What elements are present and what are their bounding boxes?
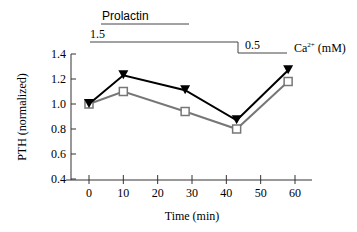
y-tick-label: 0.6 (51, 147, 66, 161)
calcium-low-label: 0.5 (245, 38, 260, 52)
data-point-square (119, 88, 127, 96)
data-point-square (181, 108, 189, 116)
prolactin-label: Prolactin (102, 9, 149, 23)
plot-area (84, 65, 293, 133)
calcium-high-label: 1.5 (90, 27, 105, 41)
x-tick-label: 50 (255, 186, 267, 200)
y-tick-label: 0.8 (51, 122, 66, 136)
data-point-triangle (232, 115, 242, 124)
x-tick-label: 0 (86, 186, 92, 200)
x-tick-label: 20 (152, 186, 164, 200)
y-axis: 0.40.60.81.01.21.4 PTH (normalized) (15, 47, 76, 186)
x-tick-label: 30 (186, 186, 198, 200)
y-tick-label: 0.4 (51, 172, 66, 186)
line-chart: Prolactin 1.5 0.5 Ca2+ (mM) 0.40.60.81.0… (0, 0, 357, 232)
y-tick-label: 1.4 (51, 47, 66, 61)
y-tick-label: 1.2 (51, 72, 66, 86)
y-axis-label: PTH (normalized) (15, 73, 29, 161)
data-point-square (284, 78, 292, 86)
x-tick-label: 60 (289, 186, 301, 200)
x-axis: 0102030405060 Time (min) (66, 175, 312, 223)
x-tick-label: 10 (117, 186, 129, 200)
data-point-square (233, 125, 241, 133)
x-axis-label: Time (min) (165, 209, 220, 223)
annotations: Prolactin 1.5 0.5 Ca2+ (mM) (90, 9, 346, 55)
calcium-unit-label: Ca2+ (mM) (294, 41, 346, 55)
y-tick-label: 1.0 (51, 97, 66, 111)
x-tick-label: 40 (220, 186, 232, 200)
